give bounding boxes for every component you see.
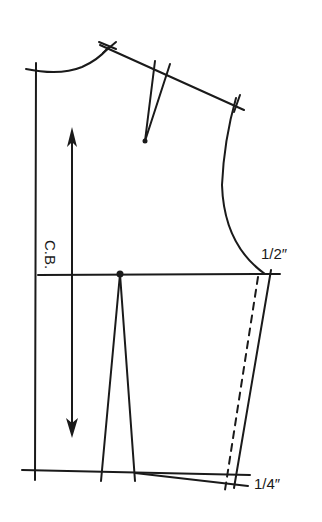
waist-dart-leg-right <box>120 274 135 481</box>
armhole-curve <box>222 98 265 274</box>
side-seam-new <box>234 270 271 488</box>
waist-dart-leg-left <box>101 274 120 481</box>
pattern-diagram: C.B. 1/2″ 1/4″ <box>0 0 322 522</box>
back-neckline-curve <box>26 48 108 72</box>
shoulder-dart-leg-right <box>145 64 170 141</box>
half-inch-label: 1/2″ <box>261 246 287 261</box>
side-seam-original-dashed <box>225 277 258 490</box>
shoulder-dart-leg-left <box>145 61 155 141</box>
center-back-label: C.B. <box>43 240 58 269</box>
shoulder-line <box>100 45 244 110</box>
chest-line <box>38 274 280 275</box>
center-back-line <box>35 63 36 480</box>
quarter-inch-label: 1/4″ <box>254 476 280 491</box>
shoulder-dart-point <box>143 139 148 144</box>
